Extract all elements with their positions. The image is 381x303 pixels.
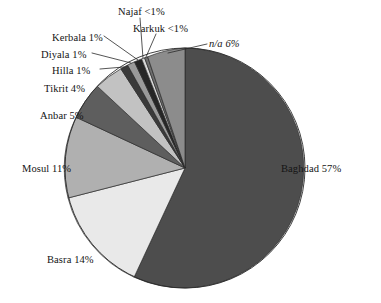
pie-label-karkuk: Karkuk <1% bbox=[133, 23, 188, 34]
pie-label-baghdad: Baghdad 57% bbox=[281, 163, 341, 174]
pie-chart-figure: Baghdad 57% Basra 14% Mosul 11% Anbar 5%… bbox=[0, 0, 381, 303]
pie-label-basra: Basra 14% bbox=[47, 254, 94, 265]
pie-label-hilla: Hilla 1% bbox=[52, 65, 90, 76]
pie-label-tikrit: Tikrit 4% bbox=[44, 83, 85, 94]
pie-label-na: n/a 6% bbox=[209, 38, 240, 49]
pie-label-diyala: Diyala 1% bbox=[41, 49, 87, 60]
pie-slices bbox=[64, 48, 303, 288]
pie-label-anbar: Anbar 5% bbox=[40, 110, 84, 121]
leader-line-kerbala bbox=[104, 36, 138, 60]
pie-label-mosul: Mosul 11% bbox=[22, 163, 71, 174]
pie-label-najaf: Najaf <1% bbox=[118, 6, 165, 17]
pie-label-kerbala: Kerbala 1% bbox=[52, 32, 103, 43]
leader-line-karkuk bbox=[146, 34, 156, 57]
leader-line-diyala bbox=[92, 53, 131, 63]
